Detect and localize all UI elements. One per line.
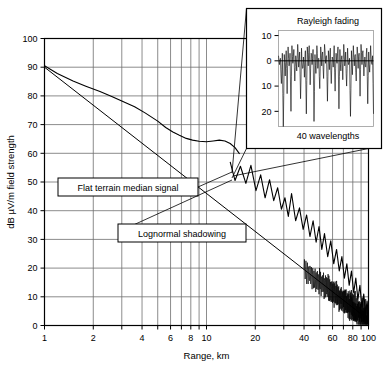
inset-frame — [247, 9, 382, 149]
inset-leader-line-right — [233, 149, 369, 177]
x-tick-label: 4 — [140, 333, 145, 343]
x-tick-label: 2 — [91, 333, 96, 343]
x-tick-label: 10 — [201, 333, 211, 343]
y-tick-label: 0 — [32, 321, 37, 331]
y-tick-label: 70 — [27, 120, 37, 130]
inset-panel: Rayleigh fading40 wavelengths1001020 — [232, 9, 382, 179]
y-axis-title: dB µV/m field strength — [5, 135, 16, 229]
callout-flat-terrain-label: Flat terrain median signal — [77, 183, 178, 193]
y-tick-label: 90 — [27, 62, 37, 72]
inset-y-tick-label: 10 — [261, 81, 271, 91]
y-tick-label: 50 — [27, 177, 37, 187]
propagation-chart: 0102030405060708090100124681020406080100… — [0, 0, 384, 367]
callout-leader-line — [198, 172, 232, 187]
y-tick-label: 10 — [27, 292, 37, 302]
y-tick-label: 40 — [27, 206, 37, 216]
x-axis-title: Range, km — [184, 350, 230, 361]
inset-x-label: 40 wavelengths — [297, 131, 360, 141]
inset-y-tick-label: 10 — [261, 31, 271, 41]
x-tick-label: 1 — [42, 333, 47, 343]
y-tick-label: 30 — [27, 235, 37, 245]
x-tick-label: 100 — [361, 333, 376, 343]
chart-figure: 0102030405060708090100124681020406080100… — [0, 0, 384, 367]
x-tick-label: 60 — [328, 333, 338, 343]
inset-leader-line-top — [232, 9, 247, 174]
inset-title: Rayleigh fading — [297, 16, 359, 26]
y-tick-label: 20 — [27, 263, 37, 273]
x-tick-label: 40 — [299, 333, 309, 343]
y-tick-label: 60 — [27, 149, 37, 159]
inset-y-tick-label: 0 — [266, 56, 271, 66]
callout-lognormal-label: Lognormal shadowing — [138, 229, 226, 239]
x-tick-label: 8 — [188, 333, 193, 343]
x-tick-label: 6 — [168, 333, 173, 343]
annotations: Flat terrain median signalLognormal shad… — [58, 172, 246, 242]
x-tick-label: 20 — [250, 333, 260, 343]
y-tick-label: 100 — [22, 34, 37, 44]
inset-y-tick-label: 20 — [261, 107, 271, 117]
y-tick-label: 80 — [27, 91, 37, 101]
x-tick-label: 80 — [348, 333, 358, 343]
